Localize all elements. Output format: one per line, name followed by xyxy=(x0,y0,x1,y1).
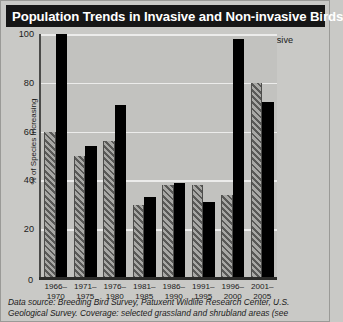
bar-invasive xyxy=(174,183,186,278)
y-tick-40: 40 xyxy=(1,175,34,185)
bar-non-invasive xyxy=(74,156,86,278)
y-tick-20: 20 xyxy=(1,224,34,234)
y-tick-0: 0 xyxy=(28,275,33,285)
y-tick-100: 100 xyxy=(1,29,34,39)
bar-group xyxy=(71,34,101,278)
bar-non-invasive xyxy=(251,83,263,278)
bar-non-invasive xyxy=(44,132,56,278)
x-axis-line xyxy=(39,277,277,280)
x-tick-line-1: 1981– xyxy=(133,282,156,291)
bar-non-invasive xyxy=(133,205,145,278)
bar-invasive xyxy=(262,102,274,278)
bar-non-invasive xyxy=(221,195,233,278)
footnote-line-2: Geological Survey. Coverage: selected gr… xyxy=(8,308,326,319)
footnote: Data source: Breeding Bird Survey, Patux… xyxy=(8,297,326,319)
bar-invasive xyxy=(56,34,68,278)
x-tick-line-1: 1971– xyxy=(74,282,97,291)
bar-non-invasive xyxy=(103,141,115,278)
plot-wrapper: % of Species Increasing 100 80 60 40 20 … xyxy=(1,29,331,287)
x-tick-line-1: 1991– xyxy=(192,282,215,291)
bar-group xyxy=(248,34,278,278)
x-tick-line-1: 2001– xyxy=(251,282,274,291)
x-tick-line-1: 1986– xyxy=(162,282,185,291)
plot-area xyxy=(41,34,277,278)
x-tick-line-1: 1966– xyxy=(44,282,67,291)
bar-invasive xyxy=(115,105,127,278)
y-axis-ticks: 100 80 60 40 20 xyxy=(1,29,34,279)
bar-group xyxy=(130,34,160,278)
bar-group xyxy=(100,34,130,278)
x-tick-line-1: 1996– xyxy=(221,282,244,291)
bar-group xyxy=(189,34,219,278)
bar-groups xyxy=(41,34,277,278)
bar-non-invasive xyxy=(162,185,174,278)
y-tick-60: 60 xyxy=(1,127,34,137)
chart-title-bar: Population Trends in Invasive and Non-in… xyxy=(6,5,325,27)
bar-group xyxy=(218,34,248,278)
bar-invasive xyxy=(203,202,215,278)
bar-group xyxy=(159,34,189,278)
page-title: Population Trends in Invasive and Non-in… xyxy=(6,9,343,24)
bar-non-invasive xyxy=(192,185,204,278)
bar-invasive xyxy=(85,146,97,278)
x-tick-line-1: 1976– xyxy=(103,282,126,291)
bar-group xyxy=(41,34,71,278)
y-tick-80: 80 xyxy=(1,78,34,88)
footnote-line-1: Data source: Breeding Bird Survey, Patux… xyxy=(8,297,326,308)
bar-invasive xyxy=(144,197,156,278)
bar-invasive xyxy=(233,39,245,278)
